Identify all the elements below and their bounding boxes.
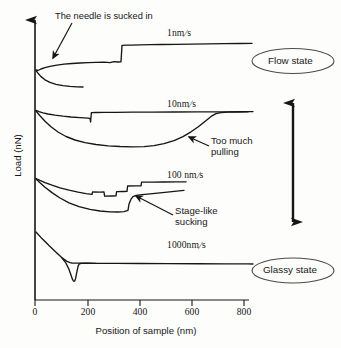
too-much-pulling-leader: [189, 137, 209, 146]
speed-label-1nm-per-s: 1nm∕s: [167, 26, 191, 39]
curve-1nm-hold-trace: [36, 43, 252, 70]
curve-100nm-per-s: [36, 179, 186, 213]
curve-1nm-pulling-branch: [36, 71, 83, 87]
speed-100nm-unit: s: [200, 169, 204, 180]
speed-label-1000nm-per-s: 1000nm∕s: [167, 238, 206, 251]
curve-1000nm-per-s: [36, 232, 253, 281]
y-axis-label: Load (nN): [12, 121, 23, 191]
figure-container: The needle is sucked in Too much pulling…: [0, 0, 341, 348]
annotation-needle-sucked-in: The needle is sucked in: [55, 11, 153, 21]
speed-10nm-unit: s: [192, 98, 196, 109]
speed-100nm-separator: ∕: [197, 169, 199, 181]
speed-1000nm-unit: s: [202, 239, 206, 250]
speed-10nm-value: 10nm: [167, 98, 189, 109]
glassy-state-label: Glassy state: [263, 264, 317, 275]
speed-1000nm-value: 1000nm: [167, 239, 199, 250]
speed-1nm-separator: ∕: [185, 27, 187, 39]
flow-state-label: Flow state: [268, 55, 313, 66]
speed-1nm-value: 1nm: [167, 27, 184, 38]
speed-10nm-separator: ∕: [189, 98, 191, 110]
curve-1nm-per-s: [36, 43, 252, 87]
speed-label-100nm-per-s: 100 nm∕s: [167, 168, 203, 181]
speed-100nm-value: 100 nm: [167, 169, 197, 180]
speed-1000nm-separator: ∕: [199, 239, 201, 251]
x-axis-label: Position of sample (nm): [61, 326, 231, 337]
x-tick-label-400: 400: [127, 306, 153, 317]
x-tick-label-800: 800: [231, 306, 257, 317]
stage-like-sucking-leader: [136, 196, 173, 215]
x-tick-label-200: 200: [75, 306, 101, 317]
speed-1nm-unit: s: [187, 27, 191, 38]
annotation-too-much-pulling: Too much pulling: [211, 136, 253, 157]
curve-100nm-stage-trace: [36, 179, 186, 197]
speed-label-10nm-per-s: 10nm∕s: [167, 97, 196, 110]
needle-leader-arrow: [53, 23, 72, 58]
x-tick-label-0: 0: [27, 306, 43, 317]
x-tick-label-600: 600: [179, 306, 205, 317]
annotation-stage-like-sucking: Stage-like sucking: [175, 206, 218, 227]
curve-1000nm-trace: [36, 232, 253, 264]
